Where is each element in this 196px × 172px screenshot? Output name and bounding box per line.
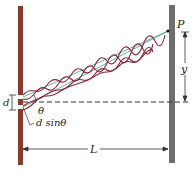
screen (169, 5, 175, 163)
slit-barrier (18, 6, 23, 165)
label-l: L (89, 143, 97, 156)
double-slit-diagram: P y d θ d sinθ L (0, 0, 196, 172)
wave-paths (23, 35, 165, 110)
point-p-marker (166, 29, 169, 32)
label-y: y (180, 63, 188, 76)
label-d-sin-theta: d sinθ (36, 117, 66, 128)
label-p: P (176, 18, 185, 31)
d-dimension-arrow (9, 95, 16, 110)
label-d: d (3, 97, 9, 108)
label-theta: θ (38, 105, 44, 116)
